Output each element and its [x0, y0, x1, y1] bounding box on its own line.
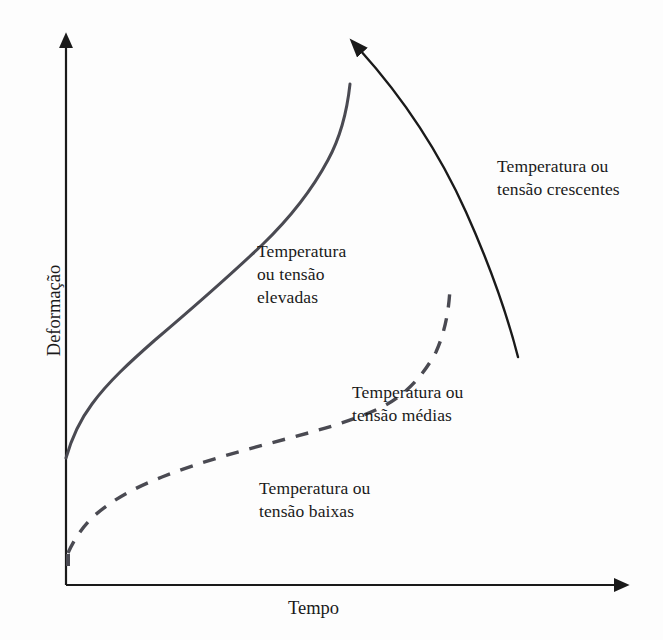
annotation-line: Temperatura ou — [352, 381, 463, 404]
annotation-line: Temperatura ou — [497, 155, 620, 178]
annotation-high-temperature: Temperatura ou tensão elevadas — [257, 240, 346, 309]
annotation-line: ou tensão — [257, 263, 346, 286]
annotation-increasing-temperature: Temperatura ou tensão crescentes — [497, 155, 620, 201]
annotation-line: tensão crescentes — [497, 178, 620, 201]
annotation-line: tensão médias — [352, 404, 463, 427]
trend-arrow-increasing — [360, 50, 518, 357]
annotation-line: Temperatura — [257, 240, 346, 263]
annotation-low-temperature: Temperatura ou tensão baixas — [259, 477, 370, 523]
annotation-medium-temperature: Temperatura ou tensão médias — [352, 381, 463, 427]
creep-curve-figure: Temperatura ou tensão crescentes Tempera… — [0, 0, 663, 640]
annotation-line: tensão baixas — [259, 500, 370, 523]
chart-canvas — [0, 0, 663, 640]
annotation-line: Temperatura ou — [259, 477, 370, 500]
annotation-line: elevadas — [257, 286, 346, 309]
x-axis-title: Tempo — [288, 598, 339, 619]
y-axis-title: Deformação — [44, 251, 65, 371]
